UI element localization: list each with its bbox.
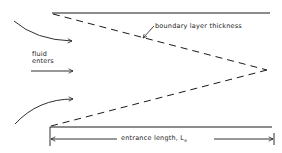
entrance-length-label: entrance length, Le: [121, 135, 187, 144]
boundary-layer-leader-arrow: [143, 26, 154, 38]
inflow-arrow-top: [14, 21, 72, 41]
inflow-arrow-bottom: [15, 99, 73, 124]
lower-boundary-layer-line: [51, 70, 267, 126]
entrance-length-subscript: e: [184, 138, 187, 143]
entrance-length-text: entrance length, L: [121, 134, 184, 142]
fluid-label-line2: enters: [32, 58, 54, 65]
entrance-length-diagram: boundary layer thickness fluid enters en…: [0, 0, 282, 153]
fluid-enters-label: fluid enters: [32, 51, 54, 65]
boundary-layer-label: boundary layer thickness: [155, 23, 242, 30]
